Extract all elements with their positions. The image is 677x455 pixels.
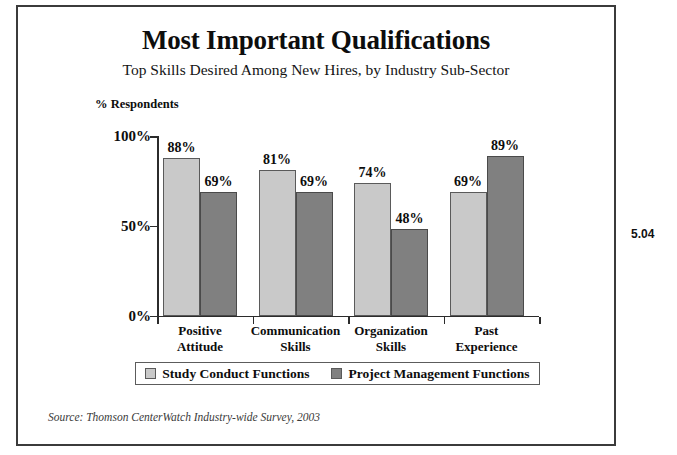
bar-value-label: 81% — [263, 152, 291, 168]
y-axis-line — [157, 136, 159, 317]
bar[interactable]: 69% — [296, 192, 333, 316]
bar[interactable]: 89% — [487, 156, 524, 316]
legend-entry[interactable]: Project Management Functions — [331, 366, 529, 382]
y-axis-title: % Respondents — [95, 97, 179, 112]
bar-value-label: 74% — [359, 165, 387, 181]
bar[interactable]: 74% — [354, 183, 391, 316]
legend-label: Study Conduct Functions — [162, 366, 309, 382]
bar-value-label: 69% — [300, 174, 328, 190]
bar[interactable]: 48% — [391, 229, 428, 315]
y-axis-tick-mark — [150, 136, 157, 138]
y-axis-tick-label: 100% — [114, 128, 152, 145]
bar[interactable]: 69% — [200, 192, 237, 316]
legend-swatch-icon — [145, 368, 156, 379]
chart-legend: Study Conduct FunctionsProject Managemen… — [135, 362, 540, 385]
bar-group: 81%69% — [259, 136, 333, 316]
category-label-line: Experience — [427, 339, 547, 355]
y-axis-tick-label: 0% — [129, 307, 152, 324]
bar-group: 69%89% — [450, 136, 524, 316]
legend-label: Project Management Functions — [348, 366, 529, 382]
category-label-line: Past — [427, 323, 547, 339]
bar[interactable]: 88% — [163, 158, 200, 316]
figure-number: 5.04 — [631, 227, 654, 241]
bar-value-label: 69% — [205, 174, 233, 190]
source-note: Source: Thomson CenterWatch Industry-wid… — [48, 411, 320, 423]
category-label: PastExperience — [427, 323, 547, 355]
bar[interactable]: 69% — [450, 192, 487, 316]
bar-value-label: 89% — [491, 138, 519, 154]
chart-subtitle: Top Skills Desired Among New Hires, by I… — [18, 61, 614, 79]
legend-entry[interactable]: Study Conduct Functions — [145, 366, 309, 382]
bar-value-label: 88% — [168, 140, 196, 156]
figure-frame: Most Important Qualifications Top Skills… — [16, 5, 616, 446]
y-axis-tick-mark — [150, 226, 157, 228]
bar-group: 74%48% — [354, 136, 428, 316]
bar-value-label: 48% — [396, 211, 424, 227]
y-axis-tick-label: 50% — [121, 217, 151, 234]
bar-group: 88%69% — [163, 136, 237, 316]
bar-value-label: 69% — [454, 174, 482, 190]
y-axis-tick-mark — [150, 316, 157, 318]
bar[interactable]: 81% — [259, 170, 296, 315]
legend-swatch-icon — [331, 368, 342, 379]
plot-area: 0%50%100% 88%69%81%69%74%48%69%89% — [157, 136, 539, 317]
chart-title: Most Important Qualifications — [18, 25, 614, 56]
